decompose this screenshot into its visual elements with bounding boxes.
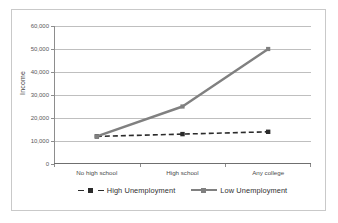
data-point-marker bbox=[95, 134, 99, 138]
data-point-marker bbox=[180, 132, 184, 136]
legend-label: High Unemployment bbox=[107, 186, 176, 195]
legend-swatch-icon bbox=[191, 187, 217, 195]
y-tick-label: 10,000 bbox=[9, 138, 49, 144]
y-tick-label: 0 bbox=[9, 161, 49, 167]
x-category-label: Any college bbox=[225, 168, 311, 180]
legend-swatch-icon bbox=[78, 187, 104, 195]
legend-item[interactable]: Low Unemployment bbox=[191, 186, 287, 195]
chart-legend: High UnemploymentLow Unemployment bbox=[54, 186, 311, 195]
income-by-education-line-chart: Income 60,00050,00040,00030,00020,00010,… bbox=[0, 0, 338, 223]
y-tick-label: 40,000 bbox=[9, 69, 49, 75]
x-tick-mark bbox=[140, 164, 141, 167]
x-category-label: No high school bbox=[54, 168, 140, 180]
x-category-label: High school bbox=[140, 168, 226, 180]
x-tick-mark bbox=[310, 164, 311, 167]
y-tick-label: 50,000 bbox=[9, 46, 49, 52]
data-point-marker bbox=[180, 104, 184, 108]
legend-label: Low Unemployment bbox=[220, 186, 287, 195]
legend-item[interactable]: High Unemployment bbox=[78, 186, 176, 195]
data-point-marker bbox=[266, 130, 270, 134]
plot-area bbox=[54, 26, 311, 164]
y-tick-label: 60,000 bbox=[9, 23, 49, 29]
x-tick-mark bbox=[54, 164, 55, 167]
y-tick-label: 30,000 bbox=[9, 92, 49, 98]
x-axis-category-labels: No high schoolHigh schoolAny college bbox=[54, 168, 311, 180]
series-layer bbox=[54, 26, 311, 164]
series-line bbox=[97, 49, 268, 136]
x-tick-mark bbox=[225, 164, 226, 167]
data-point-marker bbox=[266, 47, 270, 51]
y-tick-label: 20,000 bbox=[9, 115, 49, 121]
